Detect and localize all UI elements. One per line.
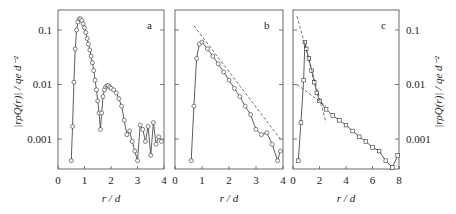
xtick-b-0: 0 [172, 174, 178, 186]
xlabel-c: r / d [337, 192, 356, 204]
plot-area [58, 16, 399, 169]
xtick-c-4: 4 [343, 174, 349, 186]
xlabel-b: r / d [220, 192, 239, 204]
panel-b-frame [175, 10, 283, 169]
xlabel-a: r / d [102, 192, 121, 204]
xtick-b-4: 4 [280, 174, 286, 186]
ytick-right-0.01: 0.01 [406, 78, 425, 90]
ytick-right-0.001: 0.001 [406, 133, 431, 145]
ytick-right-0.1: 0.1 [406, 24, 420, 36]
xtick-c-0: 0 [290, 174, 296, 186]
figure: 0.1 0.01 0.001 |rρQ(r)| / qe d⁻² 0.1 0.0… [0, 0, 456, 214]
panel-c-frame [293, 10, 399, 169]
xtick-b-2: 2 [226, 174, 232, 186]
ytick-left-0.1: 0.1 [38, 24, 52, 36]
xtick-a-3: 3 [135, 174, 141, 186]
xtick-a-4: 4 [161, 174, 167, 186]
ylabel-right: |rρQ(r)| / qe d⁻² [432, 55, 445, 127]
panel-c-label: c [381, 19, 386, 31]
xtick-a-1: 1 [82, 174, 88, 186]
xtick-c-2: 2 [317, 174, 323, 186]
panel-a-label: a [147, 19, 152, 31]
xtick-a-2: 2 [108, 174, 114, 186]
xtick-b-3: 3 [253, 174, 259, 186]
ytick-left-0.01: 0.01 [33, 78, 52, 90]
xtick-c-8: 8 [396, 174, 402, 186]
xtick-a-0: 0 [55, 174, 61, 186]
panel-b-label: b [264, 19, 270, 31]
ytick-left-0.001: 0.001 [27, 133, 52, 145]
xtick-c-6: 6 [370, 174, 376, 186]
ylabel-left: |rρQ(r)| / qe d⁻² [11, 55, 24, 127]
xtick-b-1: 1 [199, 174, 205, 186]
